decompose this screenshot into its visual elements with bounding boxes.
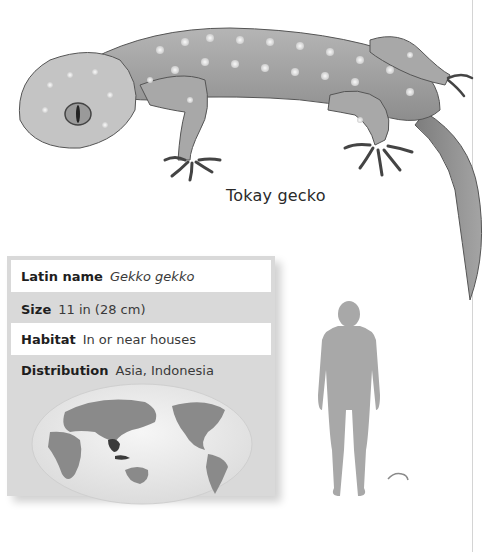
gecko-scale-icon — [386, 470, 410, 484]
fact-value: 11 in (28 cm) — [58, 302, 145, 317]
fact-value: In or near houses — [83, 332, 196, 347]
fact-label: Size — [21, 302, 51, 317]
fact-label: Latin name — [21, 269, 103, 284]
species-caption: Tokay gecko — [226, 186, 326, 205]
fact-label: Distribution — [21, 363, 108, 378]
fact-row-size: Size 11 in (28 cm) — [11, 293, 271, 325]
fact-value: Asia, Indonesia — [115, 363, 213, 378]
fact-label: Habitat — [21, 332, 76, 347]
fact-row-latin-name: Latin name Gekko gekko — [11, 260, 271, 292]
world-map-icon — [20, 382, 260, 512]
fact-row-habitat: Habitat In or near houses — [11, 323, 271, 355]
fact-value: Gekko gekko — [110, 269, 194, 284]
human-silhouette-icon — [310, 300, 388, 500]
